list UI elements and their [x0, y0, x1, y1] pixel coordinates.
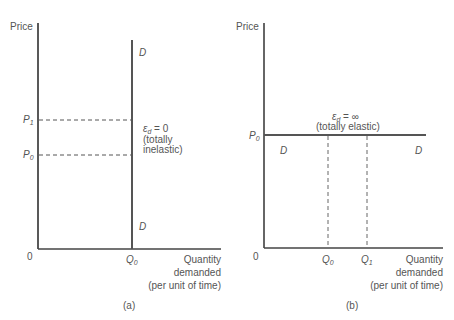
panel-a-p0-label: P0	[23, 149, 34, 163]
panel-a-x-axis-label-line1: Quantity	[120, 254, 221, 265]
panel-a-y-axis-label: Price	[10, 21, 33, 32]
q0-sub: 0	[330, 259, 334, 266]
panel-a-origin-label: 0	[27, 251, 33, 262]
panel-b-x-axis-label-line3: (per unit of time)	[343, 280, 443, 291]
panel-a-x-axis-label-line2: demanded	[120, 267, 221, 278]
p0-main: P	[249, 130, 256, 141]
panel-a-d-top-label: D	[139, 47, 146, 58]
panel-b-p0-label: P0	[249, 130, 260, 144]
panel-a-caption: (a)	[123, 300, 135, 311]
p0-sub: 0	[30, 154, 34, 161]
q0-main: Q	[322, 254, 330, 265]
elasticity-value: = 0	[151, 123, 168, 134]
panel-b-q0-label: Q0	[322, 254, 334, 268]
panel-b-y-axis-label: Price	[236, 21, 259, 32]
panel-b-note-line1: (totally elastic)	[316, 121, 380, 132]
panel-b-origin-label: 0	[253, 251, 259, 262]
panel-b-x-axis-label-line2: demanded	[343, 267, 443, 278]
panel-b-d-right-label: D	[415, 145, 422, 156]
p1-sub: 1	[30, 119, 34, 126]
panel-b-caption: (b)	[346, 300, 358, 311]
panel-a-x-axis-label-line3: (per unit of time)	[120, 280, 221, 291]
panel-a-p1-label: P1	[23, 114, 34, 128]
p0-sub: 0	[256, 135, 260, 142]
panel-a-axes	[38, 23, 221, 249]
panel-b-x-axis-label-line1: Quantity	[343, 254, 443, 265]
p1-main: P	[23, 114, 30, 125]
panel-a-note-line2: inelastic)	[143, 144, 182, 155]
panel-a-d-bottom-label: D	[139, 221, 146, 232]
p0-main: P	[23, 149, 30, 160]
panel-b-d-left-label: D	[280, 145, 287, 156]
